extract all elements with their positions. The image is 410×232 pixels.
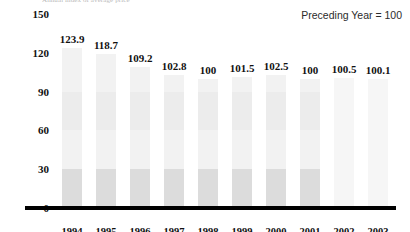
bar-value-label: 100.5 xyxy=(332,63,357,75)
bar-band-low xyxy=(266,169,285,208)
bar-value-label: 102.8 xyxy=(162,60,187,72)
x-axis-category-label: 2002 xyxy=(334,226,355,232)
y-axis-tick-label: 60 xyxy=(38,124,49,136)
bar-value-label: 109.2 xyxy=(128,52,153,64)
x-axis-category-label: 1997 xyxy=(164,226,185,232)
bar-band-low xyxy=(164,169,183,208)
bar-value-label: 123.9 xyxy=(60,33,85,45)
bar-band-mid xyxy=(232,92,251,131)
bar-value-label: 100.1 xyxy=(366,64,391,76)
bar-band-mid xyxy=(130,92,149,131)
bar-band-mid xyxy=(96,92,115,131)
bar-band-low xyxy=(232,169,251,208)
x-axis-category-label: 1999 xyxy=(232,226,253,232)
bar xyxy=(334,78,353,208)
x-axis-category-label: 1996 xyxy=(130,226,151,232)
bar-band-mid xyxy=(164,92,183,131)
bar xyxy=(198,79,217,208)
bar-band-mid xyxy=(300,92,319,131)
plot-area: 0306090120150123.91994118.71995109.21996… xyxy=(55,14,395,208)
chart-title: Annual index of average price xyxy=(42,0,192,3)
bar-band-low xyxy=(334,169,353,208)
bar xyxy=(368,79,387,208)
bar-band-mid xyxy=(334,92,353,131)
bar-value-label: 118.7 xyxy=(94,39,118,51)
y-axis-tick-label: 90 xyxy=(38,86,49,98)
y-axis-tick-label: 120 xyxy=(33,47,50,59)
bar-band-mid xyxy=(62,92,81,131)
bar-band-mid xyxy=(368,92,387,131)
bar-band-mid xyxy=(198,92,217,131)
bar-band-mid xyxy=(266,92,285,131)
bar-band-low xyxy=(300,169,319,208)
bar xyxy=(96,54,115,208)
x-axis-category-label: 2001 xyxy=(300,226,321,232)
bar-value-label: 101.5 xyxy=(230,62,255,74)
bar-band-low xyxy=(198,169,217,208)
bar-value-label: 100 xyxy=(302,64,319,76)
bar-band-low xyxy=(130,169,149,208)
bar xyxy=(130,67,149,208)
y-axis-tick-label: 30 xyxy=(38,163,49,175)
bar-band-low xyxy=(368,169,387,208)
bar-band-low xyxy=(96,169,115,208)
y-axis-tick-label: 150 xyxy=(33,8,50,20)
x-axis-category-label: 1995 xyxy=(96,226,117,232)
bar xyxy=(266,75,285,208)
x-axis-category-label: 1998 xyxy=(198,226,219,232)
x-axis-baseline xyxy=(25,206,396,210)
bar xyxy=(62,48,81,208)
bar-band-low xyxy=(62,169,81,208)
x-axis-category-label: 2003 xyxy=(368,226,389,232)
bar-value-label: 102.5 xyxy=(264,60,289,72)
bar xyxy=(232,77,251,208)
x-axis-category-label: 1994 xyxy=(62,226,83,232)
bar-value-label: 100 xyxy=(200,64,217,76)
bar xyxy=(300,79,319,208)
bar-chart: Annual index of average price Preceding … xyxy=(0,0,410,232)
bar xyxy=(164,75,183,208)
x-axis-category-label: 2000 xyxy=(266,226,287,232)
